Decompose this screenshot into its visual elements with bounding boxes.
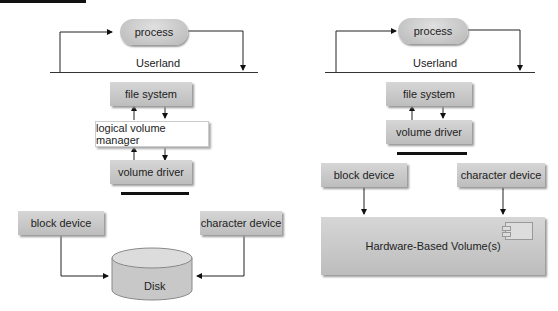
process-node-right: process <box>398 18 468 44</box>
userland-line-left <box>50 72 258 73</box>
file-system-box-right: file system <box>386 82 472 106</box>
userland-label-right: Userland <box>413 57 457 69</box>
block-device-box-right: block device <box>321 163 407 187</box>
character-device-box-right: character device <box>457 163 545 187</box>
volume-driver-box-right: volume driver <box>386 120 472 144</box>
block-device-box-left: block device <box>18 211 104 235</box>
process-node-left: process <box>120 19 188 45</box>
userland-line-right <box>325 72 535 73</box>
file-system-box-left: file system <box>110 82 192 106</box>
component-icon <box>505 222 533 240</box>
disk-label: Disk <box>144 280 165 292</box>
kernel-boundary-left <box>121 192 189 195</box>
volume-driver-box-left: volume driver <box>110 160 192 184</box>
character-device-box-left: character device <box>200 211 282 235</box>
userland-label-left: Userland <box>136 57 180 69</box>
lvm-box: logical volume manager <box>95 121 209 147</box>
kernel-boundary-right <box>397 152 467 155</box>
